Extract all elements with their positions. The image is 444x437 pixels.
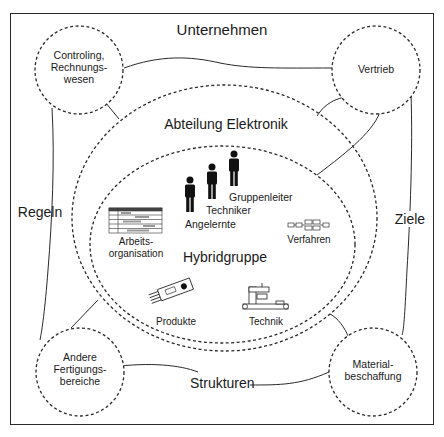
satellite-vertrieb-line1: Vertrieb: [335, 63, 417, 75]
element-produkte: Produkte: [150, 316, 202, 328]
edge-label-ziele: Ziele: [390, 211, 430, 227]
satellite-material-line2: beschaffung: [332, 370, 414, 382]
edge-label-regeln: Regeln: [15, 204, 65, 220]
element-arbeitsorganisation: Arbeits- organisation: [100, 236, 172, 259]
group-label: Hybridgruppe: [180, 249, 270, 265]
element-arbeitsorganisation-line1: Arbeits-: [100, 236, 172, 248]
edge-label-strukturen: Strukturen: [190, 375, 254, 391]
satellite-andere-line2: Fertigungs-: [39, 363, 121, 375]
role-gruppenleiter: Gruppenleiter: [229, 191, 299, 203]
role-techniker: Techniker: [206, 204, 266, 216]
satellite-controling: Controling, Rechnungs- wesen: [38, 49, 120, 85]
satellite-controling-line1: Controling,: [38, 49, 120, 61]
satellite-andere: Andere Fertigungs- bereiche: [39, 351, 121, 387]
role-angelernte: Angelernte: [185, 218, 245, 230]
spoke-andere: [71, 300, 98, 328]
satellite-controling-line3: wesen: [38, 73, 120, 85]
connector-bottom: [112, 365, 198, 372]
process-flow-icon: [288, 220, 329, 230]
department-label: Abteilung Elektronik: [158, 116, 294, 132]
spoke-vertrieb-outer: [317, 97, 345, 116]
connector-left: [40, 108, 53, 340]
element-arbeitsorganisation-line2: organisation: [100, 248, 172, 260]
satellite-vertrieb: Vertrieb: [335, 63, 417, 75]
satellite-andere-line1: Andere: [39, 351, 121, 363]
element-technik: Technik: [240, 316, 292, 328]
connector-bottom-right: [250, 372, 329, 385]
company-label: Unternehmen: [160, 21, 284, 38]
schedule-table-icon: [109, 208, 162, 233]
satellite-controling-line2: Rechnungs-: [38, 61, 120, 73]
satellite-andere-line3: bereiche: [39, 375, 121, 387]
circuit-board-icon: [148, 278, 193, 304]
machine-tool-icon: [243, 283, 289, 309]
connector-top: [124, 58, 332, 68]
satellite-material-line1: Material-: [332, 358, 414, 370]
satellite-material: Material- beschaffung: [332, 358, 414, 382]
spoke-material: [330, 314, 349, 338]
element-verfahren: Verfahren: [283, 234, 335, 246]
